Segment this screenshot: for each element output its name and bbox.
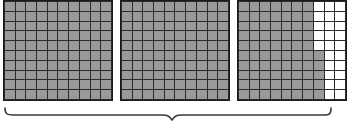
grid-cell — [314, 41, 324, 50]
grid-cell — [26, 80, 36, 89]
grid-cell — [165, 2, 175, 11]
grid-cell — [282, 41, 292, 50]
grid-cell — [282, 61, 292, 70]
grid-block-1 — [3, 0, 113, 101]
grid-cell — [5, 90, 15, 99]
grid-cell — [186, 51, 196, 60]
grid-cell — [69, 31, 79, 40]
grid-cell — [80, 90, 90, 99]
grid-cell — [37, 31, 47, 40]
grid-cell — [314, 51, 324, 60]
grid-cell — [37, 2, 47, 11]
grid-cell — [37, 71, 47, 80]
grid-cell — [335, 80, 345, 89]
grid-cell — [208, 51, 218, 60]
grid-cell — [58, 90, 68, 99]
grid-cell — [260, 61, 270, 70]
grid-cell — [16, 80, 26, 89]
grid-cell — [133, 90, 143, 99]
grid-cell — [292, 2, 302, 11]
grid-cell — [175, 2, 185, 11]
grid-cell — [197, 80, 207, 89]
grids-row — [0, 0, 343, 104]
grid-cell — [69, 12, 79, 21]
grid-cell — [303, 22, 313, 31]
grid-cell — [239, 90, 249, 99]
grid-cell — [48, 31, 58, 40]
grid-cell — [335, 2, 345, 11]
grid-cell — [16, 51, 26, 60]
grid-cell — [314, 2, 324, 11]
grid-cell — [154, 22, 164, 31]
grid-cell — [175, 80, 185, 89]
grid-cell — [5, 61, 15, 70]
grid-cell — [218, 22, 228, 31]
grid-cell — [271, 61, 281, 70]
grid-cell — [16, 90, 26, 99]
grid-cell — [218, 61, 228, 70]
grid-cell — [37, 80, 47, 89]
grid-cell — [186, 71, 196, 80]
grid-cell — [250, 51, 260, 60]
grid-cell — [80, 80, 90, 89]
grid-cell — [165, 61, 175, 70]
grid-cell — [69, 51, 79, 60]
grid-block-2 — [120, 0, 230, 101]
grid-cell — [165, 41, 175, 50]
grid-cell — [58, 51, 68, 60]
grid-cell — [335, 41, 345, 50]
grid-cell — [197, 2, 207, 11]
grid-cell — [218, 2, 228, 11]
grid-cell — [325, 22, 335, 31]
grid-cell — [143, 80, 153, 89]
grid-cell — [143, 51, 153, 60]
grid-cell — [122, 90, 132, 99]
grid-cell — [208, 41, 218, 50]
grid-cell — [48, 71, 58, 80]
grid-cell — [335, 51, 345, 60]
grid-cell — [282, 71, 292, 80]
grid-cell — [69, 80, 79, 89]
grid-cell — [69, 71, 79, 80]
grid-cell — [58, 71, 68, 80]
grid-cell — [282, 90, 292, 99]
brace-container — [0, 103, 343, 122]
grid-cell — [80, 12, 90, 21]
grid-cell — [80, 61, 90, 70]
grid-cell — [325, 61, 335, 70]
grid-cell — [5, 12, 15, 21]
grid-cell — [58, 12, 68, 21]
grid-cell — [122, 2, 132, 11]
grid-cell — [260, 41, 270, 50]
grid-cell — [154, 90, 164, 99]
grid-cell — [154, 71, 164, 80]
grid-cell — [133, 41, 143, 50]
grid-cell — [133, 2, 143, 11]
grid-cell — [186, 31, 196, 40]
grid-cell — [325, 2, 335, 11]
grid-cell — [186, 80, 196, 89]
grid-cell — [133, 31, 143, 40]
grid-cell — [271, 51, 281, 60]
grid-cell — [292, 41, 302, 50]
grid-cell — [16, 22, 26, 31]
grid-cell — [208, 90, 218, 99]
grid-cell — [80, 22, 90, 31]
grid-cell — [303, 12, 313, 21]
grid-cell — [5, 2, 15, 11]
grid-cell — [91, 51, 101, 60]
hundred-grid-1 — [3, 0, 113, 101]
grid-cell — [186, 90, 196, 99]
grid-cell — [143, 12, 153, 21]
grid-cell — [26, 61, 36, 70]
grid-cell — [154, 51, 164, 60]
grid-cell — [325, 31, 335, 40]
grid-cell — [271, 80, 281, 89]
grid-cell — [218, 31, 228, 40]
grid-cell — [133, 51, 143, 60]
grid-cell — [48, 51, 58, 60]
grid-cell — [314, 31, 324, 40]
grid-cell — [186, 41, 196, 50]
grid-cell — [16, 2, 26, 11]
grid-cell — [250, 31, 260, 40]
